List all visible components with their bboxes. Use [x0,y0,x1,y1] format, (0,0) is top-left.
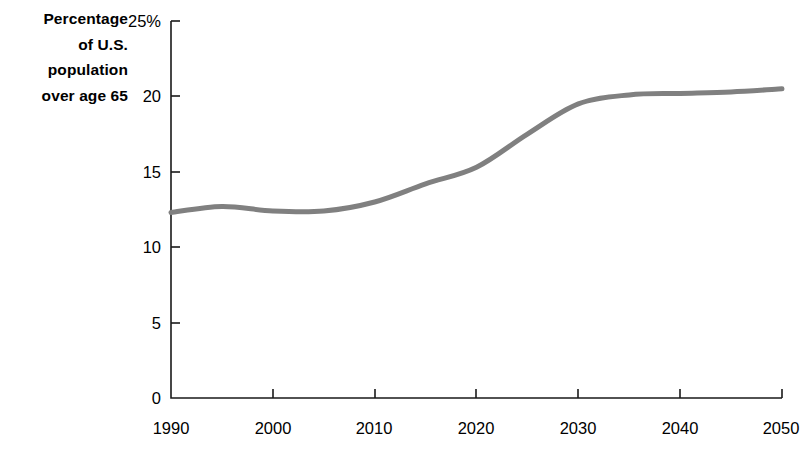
y-axis-ticks [171,21,180,323]
x-axis-ticks [273,389,782,398]
data-series-line [171,89,782,213]
line-chart: Percentage of U.S. population over age 6… [0,0,803,463]
plot-area [0,0,803,463]
